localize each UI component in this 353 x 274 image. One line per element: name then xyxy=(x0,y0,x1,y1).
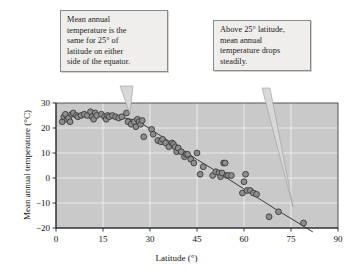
x-tick-labels: 0153045607590 xyxy=(54,234,343,244)
data-point xyxy=(241,179,247,185)
data-point xyxy=(67,119,73,125)
data-point xyxy=(276,209,282,215)
x-tick-label: 15 xyxy=(99,234,109,244)
x-tick-label: 60 xyxy=(240,234,250,244)
x-axis: 0153045607590 xyxy=(54,228,343,244)
x-tick-label: 30 xyxy=(146,234,156,244)
data-point xyxy=(194,150,200,156)
y-tick-label: 0 xyxy=(46,173,51,183)
data-point xyxy=(139,118,145,124)
callout-temperature-drop: Above 25° latitude, mean annual temperat… xyxy=(213,20,311,71)
y-tick-label: −10 xyxy=(36,198,51,208)
y-tick-label: 20 xyxy=(41,123,51,133)
data-point xyxy=(254,191,260,197)
data-point xyxy=(243,171,249,177)
y-tick-marks xyxy=(53,103,57,228)
y-axis-title: Mean annual temperature (°C) xyxy=(22,91,32,239)
data-point xyxy=(200,164,206,170)
callout-left-line-5: side of the equator. xyxy=(67,57,162,68)
x-tick-marks xyxy=(56,228,338,232)
data-point xyxy=(124,110,130,116)
data-point xyxy=(229,173,235,179)
x-tick-label: 0 xyxy=(54,234,59,244)
figure-container: 0153045607590 −20−100102030 Mean annual … xyxy=(0,0,353,274)
y-tick-label: −20 xyxy=(36,223,51,233)
x-tick-label: 75 xyxy=(287,234,297,244)
callout-right-line-1: Above 25° latitude, xyxy=(220,25,305,36)
data-point xyxy=(150,131,156,137)
y-axis: −20−100102030 xyxy=(36,98,56,233)
plot-area xyxy=(56,103,338,232)
callout-left-line-3: same for 25° of xyxy=(67,36,162,47)
data-point xyxy=(222,160,228,166)
data-point xyxy=(301,220,307,226)
callout-left-line-2: temperature is the xyxy=(67,26,162,37)
callout-right-line-3: temperature drops xyxy=(220,46,305,57)
data-point xyxy=(197,171,203,177)
x-axis-title: Latitude (°) xyxy=(0,253,353,263)
y-tick-label: 30 xyxy=(41,98,51,108)
callout-right-line-4: steadily. xyxy=(220,57,305,68)
callout-equator-symmetry: Mean annual temperature is the same for … xyxy=(60,10,168,72)
x-tick-label: 90 xyxy=(334,234,344,244)
callout-left-line-4: latitude on either xyxy=(67,47,162,58)
data-point xyxy=(141,134,147,140)
callout-right-line-2: mean annual xyxy=(220,36,305,47)
callout-left-line-1: Mean annual xyxy=(67,15,162,26)
y-tick-labels: −20−100102030 xyxy=(36,98,51,233)
data-point xyxy=(266,214,272,220)
x-tick-label: 45 xyxy=(193,234,203,244)
y-tick-label: 10 xyxy=(41,148,51,158)
data-point xyxy=(191,160,197,166)
